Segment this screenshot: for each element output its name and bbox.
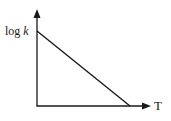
x-axis-arrow-icon: [142, 103, 151, 110]
chart: log k T: [0, 0, 171, 121]
x-axis-label: T: [154, 98, 162, 113]
y-axis: [34, 9, 41, 106]
y-axis-label: log k: [5, 24, 29, 38]
data-line: [37, 31, 130, 106]
y-axis-arrow-icon: [34, 9, 41, 18]
x-axis: [36, 103, 151, 110]
